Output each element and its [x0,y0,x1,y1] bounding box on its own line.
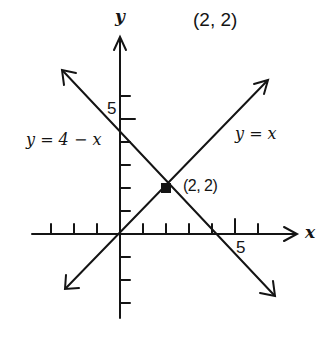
intersection-label: (2, 2) [183,178,217,194]
x-tick-label-5: 5 [236,239,245,256]
y-axis [114,37,135,318]
x-axis [32,219,297,241]
intersection-point-marker [161,183,171,193]
x-axis-label: x [305,224,315,241]
y-axis-label: y [115,8,125,25]
line-label-y-equals-x: y = x [235,126,277,142]
coordinate-plane [0,0,332,344]
line-label-y-equals-4-minus-x: y = 4 − x [26,132,101,148]
graph-title: (2, 2) [193,10,237,29]
y-tick-label-5: 5 [107,100,116,117]
